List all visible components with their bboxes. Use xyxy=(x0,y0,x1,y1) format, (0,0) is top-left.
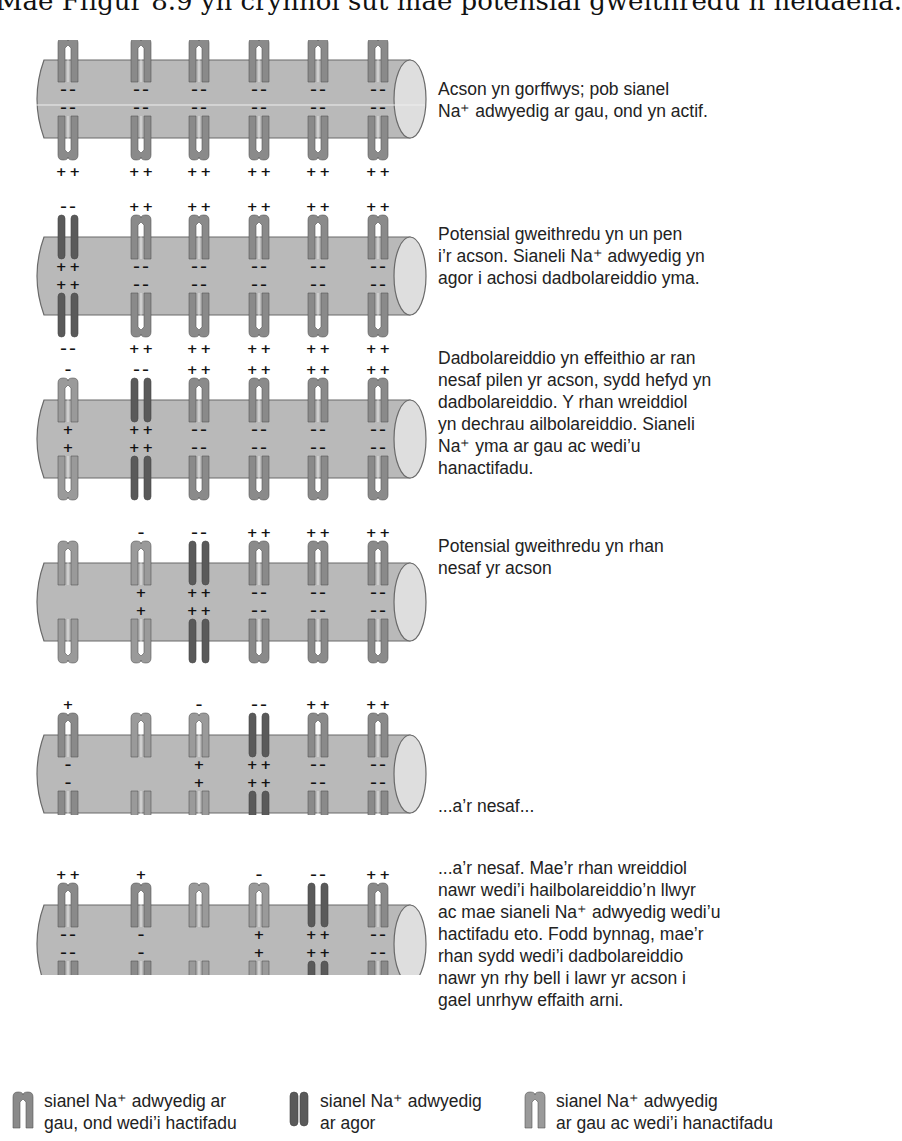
panel-caption: Acson yn gorffwys; pob sianelNa⁺ adwyedi… xyxy=(438,78,788,122)
svg-text:– –: – – xyxy=(370,277,386,292)
svg-text:– –: – – xyxy=(370,945,386,960)
na-channel-closed: +––+ xyxy=(58,697,78,815)
caption-line: ...a’r nesaf. Mae’r rhan wreiddiol xyxy=(438,857,788,879)
svg-text:– –: – – xyxy=(370,100,386,115)
svg-text:+ +: + + xyxy=(306,525,330,540)
svg-text:– –: – – xyxy=(251,259,267,274)
svg-text:– –: – – xyxy=(60,945,76,960)
svg-text:+ +: + + xyxy=(366,362,390,377)
svg-text:–: – xyxy=(65,775,72,790)
legend-item-closed-activated: sianel Na⁺ adwyedig ar gau, ond wedi’i h… xyxy=(8,1090,237,1134)
svg-text:– –: – – xyxy=(370,603,386,618)
svg-text:–: – xyxy=(65,362,72,377)
svg-text:+ +: + + xyxy=(129,164,153,179)
svg-text:–: – xyxy=(138,525,145,540)
svg-text:+ +: + + xyxy=(247,775,271,790)
svg-text:+ +: + + xyxy=(56,277,80,292)
panel-caption: ...a’r nesaf... xyxy=(438,795,788,817)
svg-text:– –: – – xyxy=(310,440,326,455)
caption-line: nesaf pilen yr acson, sydd hefyd yn xyxy=(438,369,788,391)
svg-text:– –: – – xyxy=(310,867,326,882)
svg-text:– –: – – xyxy=(60,82,76,97)
svg-text:+ +: + + xyxy=(306,362,330,377)
svg-text:– –: – – xyxy=(310,277,326,292)
svg-text:+ +: + + xyxy=(247,199,271,214)
svg-text:– –: – – xyxy=(60,100,76,115)
svg-text:– –: – – xyxy=(191,525,207,540)
panel-caption: Potensial gweithredu yn un peni’r acson.… xyxy=(438,223,788,289)
svg-text:– –: – – xyxy=(251,603,267,618)
svg-text:+: + xyxy=(254,945,265,960)
legend-label: ar gau ac wedi’i hanactifadu xyxy=(556,1112,773,1134)
svg-text:+ +: + + xyxy=(187,199,211,214)
na-channel-open: – –+ ++ +– – xyxy=(187,525,211,665)
caption-line: Na⁺ adwyedig ar gau, ond yn actif. xyxy=(438,100,788,122)
legend-label: gau, ond wedi’i hactifadu xyxy=(44,1112,237,1134)
axon-diagram: +––+–++–– –+ ++ +– –+ +– –– –+ ++ +– –– … xyxy=(0,655,440,815)
caption-line: rhan sydd wedi’i dadbolareiddio xyxy=(438,945,788,967)
caption-line: Acson yn gorffwys; pob sianel xyxy=(438,78,788,100)
svg-text:– –: – – xyxy=(370,775,386,790)
svg-text:– –: – – xyxy=(310,757,326,772)
svg-text:– –: – – xyxy=(133,100,149,115)
svg-text:– –: – – xyxy=(251,697,267,712)
caption-line: nawr yn rhy bell i lawr yr acson i xyxy=(438,967,788,989)
svg-text:– –: – – xyxy=(191,100,207,115)
svg-text:+: + xyxy=(63,697,74,712)
svg-text:+ +: + + xyxy=(187,362,211,377)
svg-text:+ +: + + xyxy=(306,697,330,712)
svg-text:+: + xyxy=(63,440,74,455)
caption-line: gael unrhyw effaith arni. xyxy=(438,989,788,1011)
svg-text:–: – xyxy=(138,945,145,960)
axon-panel-5: +––+–++–– –+ ++ +– –+ +– –– –+ ++ +– –– … xyxy=(0,655,792,815)
svg-text:– –: – – xyxy=(133,259,149,274)
svg-text:+ +: + + xyxy=(247,362,271,377)
figure-intro-text: Mae Ffigur 8.9 yn crynhoi sut mae potens… xyxy=(0,0,902,16)
svg-text:+: + xyxy=(136,603,147,618)
svg-text:+ +: + + xyxy=(366,867,390,882)
axon-panel-4: –++–– –+ ++ +– –+ +– –– –+ ++ +– –– –+ +… xyxy=(0,505,792,665)
svg-text:– –: – – xyxy=(251,585,267,600)
axon-panel-1: + +– –– –+ ++ +– –– –+ ++ +– –– –+ ++ +–… xyxy=(0,40,792,200)
svg-text:– –: – – xyxy=(310,585,326,600)
svg-text:+ +: + + xyxy=(366,525,390,540)
svg-text:+ +: + + xyxy=(306,945,330,960)
svg-text:+ +: + + xyxy=(247,757,271,772)
axon-panel-6: + +– –– –+ ++––+–++–– –+ ++ +– –+ +– –– … xyxy=(0,815,792,975)
caption-line: Potensial gweithredu yn rhan xyxy=(438,535,788,557)
svg-text:+ +: + + xyxy=(247,525,271,540)
svg-text:–: – xyxy=(65,757,72,772)
svg-text:+: + xyxy=(194,775,205,790)
inactivated-channel-icon xyxy=(520,1090,550,1130)
svg-text:– –: – – xyxy=(310,100,326,115)
na-channel-inactivated: –++– xyxy=(189,697,209,815)
svg-text:+ +: + + xyxy=(366,697,390,712)
svg-text:+ +: + + xyxy=(56,164,80,179)
axon-panel-2: – –+ ++ +– –+ +– –– –+ ++ +– –– –+ ++ +–… xyxy=(0,195,792,355)
svg-text:+ +: + + xyxy=(187,164,211,179)
svg-text:+ +: + + xyxy=(129,422,153,437)
svg-text:+ +: + + xyxy=(366,199,390,214)
axon-panel-3: –++–– –+ ++ +– –+ +– –– –+ ++ +– –– –+ +… xyxy=(0,345,792,505)
caption-line: Potensial gweithredu yn un pen xyxy=(438,223,788,245)
svg-text:– –: – – xyxy=(60,927,76,942)
svg-text:– –: – – xyxy=(251,422,267,437)
svg-text:– –: – – xyxy=(251,100,267,115)
axon-diagram: –++–– –+ ++ +– –+ +– –– –+ ++ +– –– –+ +… xyxy=(0,505,440,665)
caption-line: Na⁺ yma ar gau ac wedi’u xyxy=(438,435,788,457)
svg-text:– –: – – xyxy=(370,757,386,772)
svg-text:– –: – – xyxy=(310,775,326,790)
panel-caption: Potensial gweithredu yn rhannesaf yr acs… xyxy=(438,535,788,579)
caption-line: agor i achosi dadbolareiddio yma. xyxy=(438,267,788,289)
caption-line: ac mae sianeli Na⁺ adwyedig wedi’u xyxy=(438,901,788,923)
svg-text:+ +: + + xyxy=(306,927,330,942)
svg-text:– –: – – xyxy=(133,82,149,97)
caption-line: hactifadu eto. Fodd bynnag, mae’r xyxy=(438,923,788,945)
svg-text:+ +: + + xyxy=(247,164,271,179)
svg-text:+ +: + + xyxy=(187,585,211,600)
axon-diagram: – –+ ++ +– –+ +– –– –+ ++ +– –– –+ ++ +–… xyxy=(0,195,440,355)
svg-text:– –: – – xyxy=(251,82,267,97)
svg-text:– –: – – xyxy=(310,82,326,97)
svg-text:– –: – – xyxy=(310,259,326,274)
svg-text:+ +: + + xyxy=(366,164,390,179)
